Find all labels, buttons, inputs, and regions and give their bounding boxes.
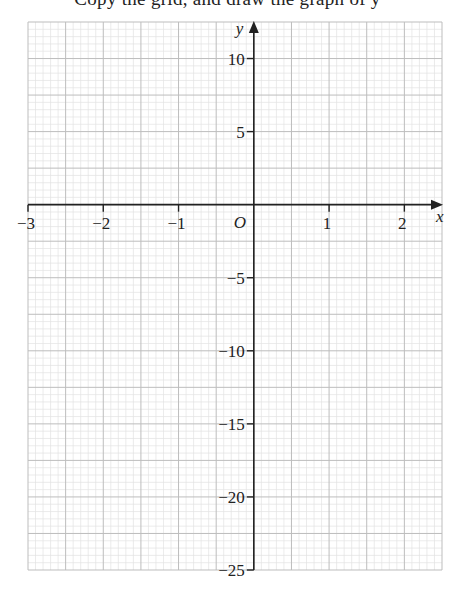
y-tick-label: −20 <box>218 488 245 507</box>
graph-paper-axes: −3−2−112105−5−10−15−20−25xyO <box>0 0 455 598</box>
x-tick-label: 2 <box>398 214 407 233</box>
origin-label: O <box>234 213 246 232</box>
y-axis-arrow-icon <box>249 21 259 33</box>
x-axis-label: x <box>435 207 444 226</box>
y-tick-label: 5 <box>236 123 245 142</box>
x-tick-label: −3 <box>17 214 35 233</box>
y-tick-label: −25 <box>218 561 245 580</box>
x-tick-label: −2 <box>92 214 110 233</box>
y-tick-label: −10 <box>218 342 245 361</box>
y-axis-label: y <box>234 19 244 38</box>
x-tick-label: −1 <box>167 214 185 233</box>
x-tick-label: 1 <box>323 214 332 233</box>
y-tick-label: −5 <box>227 269 245 288</box>
y-tick-label: −15 <box>218 415 245 434</box>
y-tick-label: 10 <box>228 50 245 69</box>
